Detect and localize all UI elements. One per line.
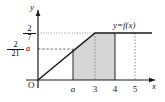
x-tick-label-3: 3 xyxy=(90,85,100,94)
plot-canvas xyxy=(0,0,165,102)
x-axis-label: x xyxy=(152,82,156,91)
y-axis-label: y xyxy=(30,3,34,12)
y-tick-label-two-sevenths: 2 7 xyxy=(23,25,36,42)
y-axis-arrowhead xyxy=(36,10,41,16)
shaded-area-under-curve xyxy=(73,33,115,80)
two-twentyfirsts-denominator: 21 xyxy=(7,49,24,58)
y-tick-label-two-twentyfirsts: 2 21 xyxy=(7,41,24,58)
two-twentyfirsts-numerator: 2 xyxy=(7,41,24,49)
origin-label: O xyxy=(28,81,35,90)
two-sevenths-numerator: 2 xyxy=(23,25,36,33)
function-graph-figure: y x O 2 7 2 21 a a 3 4 5 y=f(x) xyxy=(0,0,165,102)
x-tick-label-a: a xyxy=(68,85,78,94)
curve-label: y=f(x) xyxy=(113,21,136,30)
y-tick-label-a: a xyxy=(26,44,30,53)
x-tick-label-5: 5 xyxy=(130,85,140,94)
x-tick-label-4: 4 xyxy=(110,85,120,94)
two-sevenths-denominator: 7 xyxy=(23,33,36,42)
